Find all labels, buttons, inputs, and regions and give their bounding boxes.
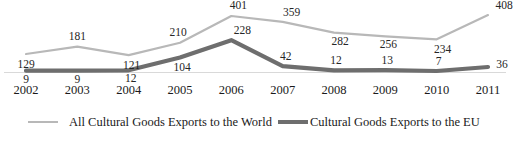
x-tick-label-2009: 2009 — [373, 84, 398, 97]
data-label-eu-2005: 104 — [173, 63, 190, 75]
data-label-world-2004: 121 — [123, 60, 140, 72]
data-label-world-2008: 282 — [331, 36, 348, 48]
data-label-world-2002: 129 — [17, 59, 34, 71]
x-axis-tick-labels: 2002200320042005200620072008200920102011 — [0, 84, 510, 104]
chart-legend: All Cultural Goods Exports to the World … — [0, 112, 510, 136]
x-tick-label-2002: 2002 — [14, 84, 39, 97]
data-label-world-2006: 401 — [230, 0, 247, 12]
data-label-eu-2009: 13 — [382, 55, 394, 67]
x-tick-label-2005: 2005 — [168, 84, 193, 97]
legend-item-world[interactable]: All Cultural Goods Exports to the World — [28, 112, 272, 132]
data-label-world-2005: 210 — [169, 27, 186, 39]
legend-line-swatch-eu-icon — [278, 120, 308, 124]
data-label-eu-2008: 12 — [330, 56, 342, 68]
plot-area: 129181121210401359282256234408 991210422… — [0, 0, 510, 82]
x-tick-label-2007: 2007 — [270, 84, 295, 97]
x-tick-label-2004: 2004 — [116, 84, 141, 97]
data-label-world-2009: 256 — [380, 40, 397, 52]
data-label-world-2011: 408 — [495, 0, 512, 12]
legend-label-eu: Cultural Goods Exports to the EU — [310, 116, 480, 129]
x-tick-label-2011: 2011 — [476, 84, 501, 97]
x-tick-label-2006: 2006 — [219, 84, 244, 97]
legend-item-eu[interactable]: Cultural Goods Exports to the EU — [278, 112, 480, 132]
data-label-eu-2006: 228 — [234, 25, 251, 37]
data-label-world-2003: 181 — [69, 31, 86, 43]
legend-line-swatch-world-icon — [28, 121, 58, 123]
x-tick-label-2008: 2008 — [322, 84, 347, 97]
series-line-world — [26, 15, 488, 55]
x-tick-label-2010: 2010 — [424, 84, 449, 97]
legend-label-world: All Cultural Goods Exports to the World — [69, 116, 272, 129]
data-label-world-2007: 359 — [283, 7, 300, 19]
data-label-eu-2011: 36 — [496, 59, 508, 71]
data-label-eu-2010: 7 — [436, 56, 442, 68]
x-tick-label-2003: 2003 — [65, 84, 90, 97]
data-label-eu-2007: 42 — [280, 51, 292, 63]
series-line-eu — [26, 40, 488, 71]
